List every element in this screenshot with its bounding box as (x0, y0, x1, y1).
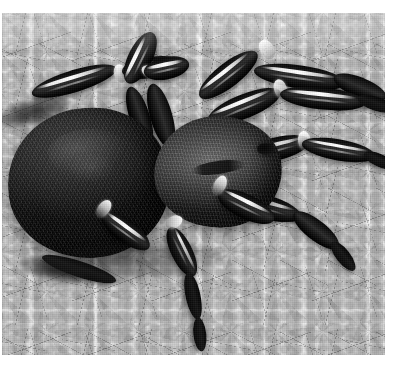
tarantula (2, 13, 385, 355)
leg-segment-r4-tarsus (326, 238, 359, 275)
spider-eyes (257, 143, 275, 155)
leg-segment-l1-femur (29, 58, 120, 105)
image-canvas (0, 0, 393, 373)
plate-margin-top (0, 0, 393, 13)
pedipalp-right-tarsus (181, 271, 206, 321)
plate-margin-left (0, 0, 2, 373)
plate-margin-bottom (0, 355, 393, 373)
photograph (2, 13, 385, 355)
leg-joint-r1 (256, 37, 279, 62)
leg-segment-r3-tibia (300, 133, 377, 167)
leg-front-center-tip (192, 317, 208, 352)
plate-margin-right (385, 0, 393, 373)
